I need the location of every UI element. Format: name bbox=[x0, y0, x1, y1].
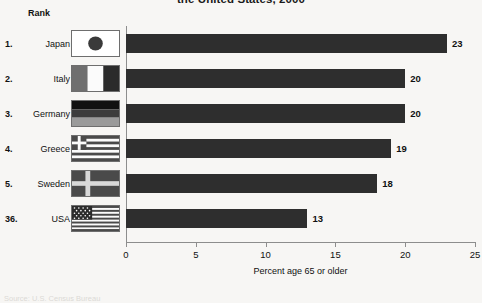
rank-value: 2. bbox=[5, 74, 13, 84]
country-name: USA bbox=[51, 214, 70, 224]
bar-usa bbox=[126, 209, 307, 228]
bar-row: 13 bbox=[126, 201, 475, 236]
bar-japan bbox=[126, 34, 447, 53]
list-item: 5. Sweden bbox=[0, 166, 126, 201]
bar-germany bbox=[126, 104, 405, 123]
x-axis-tick-label: 10 bbox=[260, 249, 271, 260]
bar-row: 20 bbox=[126, 96, 475, 131]
country-name: Greece bbox=[40, 144, 70, 154]
x-axis-tick-label: 25 bbox=[470, 249, 481, 260]
bar-italy bbox=[126, 69, 405, 88]
country-label-column: 1. Japan 2. Italy 3. Germany bbox=[0, 26, 126, 236]
bar-value-label: 18 bbox=[377, 174, 393, 193]
x-axis-label: Percent age 65 or older bbox=[126, 266, 475, 276]
x-axis-tick-label: 20 bbox=[400, 249, 411, 260]
source-note: Source: U.S. Census Bureau bbox=[4, 294, 100, 303]
country-name: Germany bbox=[33, 109, 70, 119]
bar-value-label: 20 bbox=[405, 69, 421, 88]
bar-value-label: 23 bbox=[447, 34, 463, 53]
bar-value-label: 19 bbox=[391, 139, 407, 158]
country-name: Italy bbox=[53, 74, 70, 84]
flag-japan-icon bbox=[71, 30, 120, 57]
country-name: Sweden bbox=[37, 179, 70, 189]
rank-value: 5. bbox=[5, 179, 13, 189]
x-axis-tick bbox=[405, 242, 406, 247]
bar-row: 20 bbox=[126, 61, 475, 96]
rank-column-header: Rank bbox=[28, 8, 50, 18]
x-axis-tick bbox=[266, 242, 267, 247]
rank-value: 4. bbox=[5, 144, 13, 154]
bar-sweden bbox=[126, 174, 377, 193]
x-axis-tick-label: 0 bbox=[123, 249, 128, 260]
bar-value-label: 13 bbox=[307, 209, 323, 228]
x-axis-tick-label: 15 bbox=[330, 249, 341, 260]
flag-italy-icon bbox=[71, 65, 120, 92]
x-axis-tick-label: 5 bbox=[193, 249, 198, 260]
rank-value: 1. bbox=[5, 39, 13, 49]
bar-value-label: 20 bbox=[405, 104, 421, 123]
bar-row: 19 bbox=[126, 131, 475, 166]
rank-value: 36. bbox=[5, 214, 18, 224]
bar-row: 18 bbox=[126, 166, 475, 201]
list-item: 36. USA bbox=[0, 201, 126, 236]
list-item: 2. Italy bbox=[0, 61, 126, 96]
plot-area: 23 20 20 19 18 13 0510152025 bbox=[126, 26, 475, 243]
bar-greece bbox=[126, 139, 391, 158]
flag-germany-icon bbox=[71, 100, 120, 127]
x-axis-tick bbox=[196, 242, 197, 247]
list-item: 4. Greece bbox=[0, 131, 126, 166]
x-axis-tick bbox=[126, 242, 127, 247]
x-axis-tick bbox=[475, 242, 476, 247]
rank-value: 3. bbox=[5, 109, 13, 119]
x-axis-tick bbox=[335, 242, 336, 247]
flag-usa-icon bbox=[71, 205, 120, 232]
flag-sweden-icon bbox=[71, 170, 120, 197]
list-item: 3. Germany bbox=[0, 96, 126, 131]
bar-row: 23 bbox=[126, 26, 475, 61]
flag-greece-icon bbox=[71, 135, 120, 162]
country-name: Japan bbox=[45, 39, 70, 49]
chart-title: the United States, 2000 bbox=[0, 0, 482, 5]
x-axis-line bbox=[126, 242, 476, 243]
list-item: 1. Japan bbox=[0, 26, 126, 61]
